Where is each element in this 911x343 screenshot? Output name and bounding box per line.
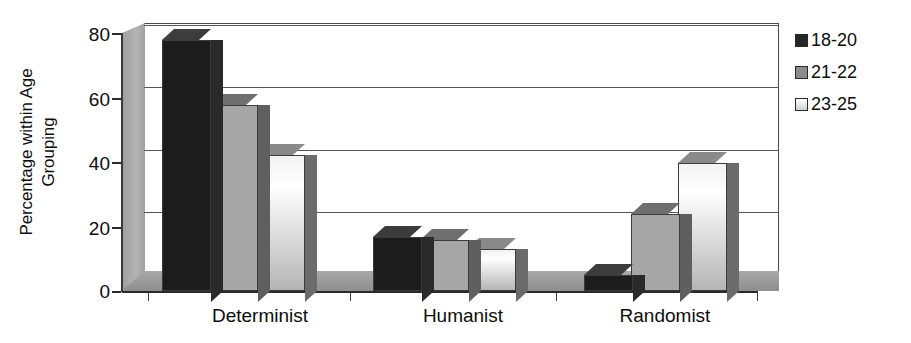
x-tick-mark-start [148, 292, 149, 301]
legend-swatch-icon-18-20 [795, 34, 808, 47]
y-axis-line [121, 33, 123, 292]
x-tick-mark-1 [350, 292, 351, 301]
bar-top [584, 264, 633, 275]
legend-label-21-22: 21-22 [811, 63, 857, 81]
x-category-label-randomist: Randomist [570, 305, 760, 327]
legend-swatch-icon-23-25 [795, 98, 808, 111]
bar-side [305, 155, 317, 302]
x-tick-mark-end [757, 292, 758, 301]
bar-side [633, 275, 645, 302]
bar-humanist-18-20 [373, 226, 422, 291]
bar-side [516, 249, 528, 302]
bar-side [258, 105, 270, 302]
x-category-label-determinist: Determinist [160, 305, 360, 327]
x-tick-mark-2 [556, 292, 557, 301]
bar-top [373, 226, 422, 237]
bar-chart: Percentage within Age Grouping 80 60 40 … [0, 0, 911, 343]
bar-top [631, 203, 680, 214]
bar-side [422, 237, 434, 302]
plot-area [0, 0, 911, 343]
bar-side [727, 163, 739, 302]
legend-swatch-icon-21-22 [795, 66, 808, 79]
bar-randomist-18-20 [584, 264, 633, 291]
legend-item-21-22: 21-22 [795, 56, 905, 88]
bar-face [373, 237, 422, 291]
gridline-60 [144, 87, 779, 88]
legend-item-23-25: 23-25 [795, 88, 905, 120]
legend: 18-20 21-22 23-25 [795, 24, 905, 120]
bar-face [584, 275, 633, 291]
x-category-label-humanist: Humanist [368, 305, 558, 327]
bar-side [211, 40, 223, 302]
bar-top [162, 29, 211, 40]
legend-item-18-20: 18-20 [795, 24, 905, 56]
legend-label-18-20: 18-20 [811, 31, 857, 49]
bar-top [678, 152, 727, 163]
gridline-80 [144, 25, 779, 26]
bar-determinist-18-20 [162, 29, 211, 291]
bar-face [162, 40, 211, 291]
chart-left-wall [122, 23, 145, 291]
bar-side [680, 214, 692, 302]
legend-label-23-25: 23-25 [811, 95, 857, 113]
